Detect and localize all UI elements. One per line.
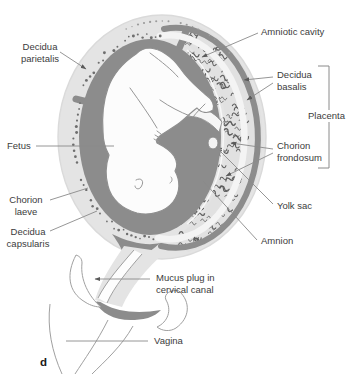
figure-panel: Decidua parietalis Amniotic cavity Decid… bbox=[0, 0, 352, 374]
label-decidua-basalis: Decidua basalis bbox=[277, 69, 312, 92]
label-chorion-frondosum: Chorion frondosum bbox=[277, 140, 322, 163]
label-chorion-laeve: Chorion laeve bbox=[4, 194, 48, 217]
external-os-crescent bbox=[95, 301, 161, 320]
label-yolk-sac: Yolk sac bbox=[277, 200, 312, 212]
label-decidua-capsularis: Decidua capsularis bbox=[0, 226, 56, 249]
label-fetus: Fetus bbox=[7, 140, 31, 152]
label-mucus-plug: Mucus plug in cervical canal bbox=[156, 272, 215, 295]
panel-letter: d bbox=[40, 356, 47, 368]
label-placenta: Placenta bbox=[306, 110, 347, 122]
label-decidua-parietalis: Decidua parietalis bbox=[8, 41, 72, 64]
label-amnion: Amnion bbox=[261, 235, 293, 247]
label-vagina: Vagina bbox=[154, 335, 183, 347]
fornix-right-horn bbox=[157, 291, 187, 331]
label-amniotic-cavity: Amniotic cavity bbox=[261, 26, 324, 38]
